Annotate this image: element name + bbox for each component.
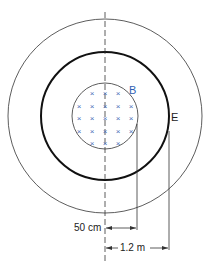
- cross-icon: ×: [129, 102, 134, 111]
- cross-icon: ×: [90, 114, 95, 123]
- cross-icon: ×: [90, 102, 95, 111]
- arrow-left-icon: [106, 226, 112, 230]
- cross-icon: ×: [103, 102, 108, 111]
- cross-icon: ×: [116, 139, 121, 148]
- cross-icon: ×: [77, 114, 82, 123]
- outer-radius-label: 1.2 m: [120, 243, 145, 253]
- cross-icon: ×: [77, 127, 82, 136]
- arrow-left-icon: [106, 246, 112, 250]
- cross-icon: ×: [103, 127, 108, 136]
- cross-icon: ×: [116, 127, 121, 136]
- cross-icon: ×: [116, 89, 121, 98]
- cross-icon: ×: [129, 127, 134, 136]
- cross-icon: ×: [129, 114, 134, 123]
- cross-icon: ×: [116, 114, 121, 123]
- field-crosses: × × × × × × × × × × × × × × × × × × × × …: [77, 89, 134, 148]
- field-label-b: B: [129, 85, 136, 96]
- cross-icon: ×: [90, 89, 95, 98]
- arrow-right-icon: [130, 226, 136, 230]
- cross-icon: ×: [103, 89, 108, 98]
- ring-label-e: E: [171, 112, 178, 123]
- cross-icon: ×: [90, 127, 95, 136]
- cross-icon: ×: [77, 102, 82, 111]
- inner-radius-label: 50 cm: [74, 223, 101, 233]
- cross-icon: ×: [116, 102, 121, 111]
- diagram: × × × × × × × × × × × × × × × × × × × × …: [0, 0, 212, 265]
- cross-icon: ×: [90, 139, 95, 148]
- cross-icon: ×: [103, 114, 108, 123]
- cross-icon: ×: [103, 139, 108, 148]
- arrow-right-icon: [162, 246, 168, 250]
